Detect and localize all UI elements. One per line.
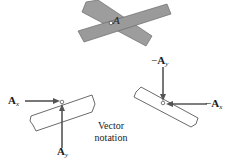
force-subscript: x bbox=[219, 103, 222, 111]
force-ax-label: Ax bbox=[8, 95, 19, 108]
caption-line-2: notation bbox=[85, 132, 137, 144]
force-subscript: x bbox=[16, 100, 19, 108]
point-a-label: A bbox=[113, 14, 120, 26]
right-member-strip bbox=[134, 87, 198, 127]
right-member bbox=[134, 67, 207, 127]
caption: Vector notation bbox=[85, 120, 137, 144]
force-symbol: A bbox=[57, 145, 65, 157]
pin-left bbox=[60, 100, 64, 104]
force-ay-label: Ay bbox=[57, 146, 68, 158]
force-neg-ay-label: −Ay bbox=[151, 55, 168, 68]
force-symbol: A bbox=[211, 97, 219, 109]
crossed-members bbox=[78, 0, 171, 46]
force-symbol: A bbox=[8, 94, 16, 106]
force-subscript: y bbox=[165, 60, 168, 68]
pin-right bbox=[161, 101, 165, 105]
force-subscript: y bbox=[65, 151, 68, 158]
force-symbol: A bbox=[157, 54, 165, 66]
force-neg-ax-label: −Ax bbox=[205, 98, 222, 111]
arrow-ax-head bbox=[53, 98, 60, 104]
caption-line-1: Vector bbox=[85, 120, 137, 132]
